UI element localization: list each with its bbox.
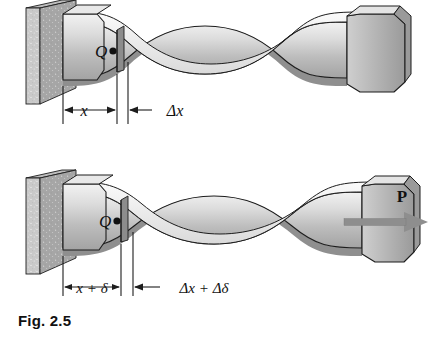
figure-container: Q x Δx	[0, 0, 433, 350]
figure-caption: Fig. 2.5	[18, 312, 71, 329]
point-marker-q-upper	[109, 47, 116, 54]
force-label-p: P	[397, 187, 407, 206]
dimension-label-dxddelta-lower: Δx + Δδ	[179, 280, 230, 296]
dimension-label-xdelta-lower: x + δ	[75, 280, 108, 296]
dimension-label-x-upper: x	[79, 102, 87, 119]
point-marker-q-lower	[113, 217, 120, 224]
cross-section-slice-upper	[117, 26, 124, 72]
dimension-label-dx-upper: Δx	[166, 102, 184, 119]
cross-section-slice-lower	[121, 196, 128, 242]
point-label-q-lower: Q	[99, 212, 111, 231]
point-label-q-upper: Q	[95, 42, 107, 61]
figure-svg: Q x Δx	[0, 0, 433, 350]
